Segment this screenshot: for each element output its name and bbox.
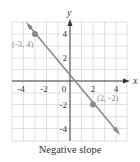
x-axis-label: x — [132, 75, 138, 86]
y-axis-arrow-icon — [68, 19, 73, 26]
y-tick-label: 4 — [63, 29, 68, 39]
y-tick-label: -2 — [60, 100, 68, 110]
x-tick-label: 2 — [91, 84, 96, 94]
x-tick-label: 0 — [62, 84, 67, 94]
coordinate-plane: x y -4 -2 0 2 4 4 2 -2 -4 (-3, 4) (2, -2… — [0, 0, 140, 162]
point-2-neg2 — [90, 102, 96, 108]
x-axis-arrow-icon — [123, 79, 130, 84]
negative-slope-line — [26, 22, 120, 135]
y-axis-label: y — [66, 7, 72, 18]
figure-caption: Negative slope — [0, 144, 140, 155]
point-label: (2, -2) — [97, 93, 118, 103]
axes — [12, 19, 130, 141]
point-neg3-4 — [32, 31, 38, 37]
y-tick-label: -4 — [60, 124, 68, 134]
y-tick-label: 2 — [63, 53, 68, 63]
x-tick-label: -2 — [40, 84, 48, 94]
point-label: (-3, 4) — [12, 39, 33, 49]
x-tick-label: -4 — [17, 84, 25, 94]
